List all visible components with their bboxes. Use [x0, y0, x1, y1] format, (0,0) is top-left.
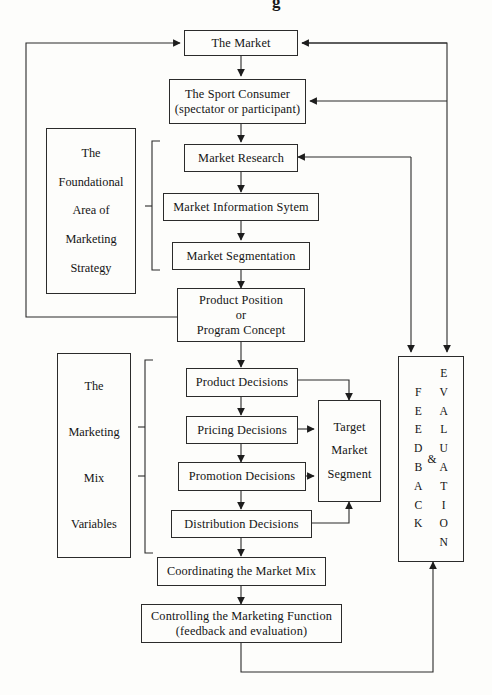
feedback-letter-4: B	[414, 459, 422, 478]
panel-feedback-and-evaluation: FEEDBACK & EVALUATION	[398, 356, 464, 562]
node-target-market-segment-line2: Market	[331, 439, 367, 462]
node-target-market-segment[interactable]: Target Market Segment	[318, 400, 381, 502]
evaluation-letter-9: N	[440, 534, 448, 553]
node-market-information-system[interactable]: Market Information Sytem	[163, 193, 319, 221]
feedback-letter-7: K	[414, 515, 422, 534]
bracket-foundational	[152, 141, 160, 270]
feedback-letter-1: E	[415, 403, 422, 422]
node-coordinating-market-mix-label: Coordinating the Market Mix	[167, 564, 316, 579]
node-sport-consumer[interactable]: The Sport Consumer (spectator or partici…	[169, 79, 306, 124]
ampersand-label: &	[425, 453, 438, 466]
node-distribution-decisions[interactable]: Distribution Decisions	[171, 510, 312, 538]
feedback-letter-0: F	[415, 384, 421, 403]
node-coordinating-market-mix[interactable]: Coordinating the Market Mix	[157, 557, 326, 586]
panel-marketing-mix-line2: Marketing	[68, 425, 119, 440]
evaluation-letter-3: L	[440, 421, 447, 440]
node-market-segmentation[interactable]: Market Segmentation	[172, 242, 310, 270]
panel-marketing-mix-line1: The	[84, 379, 103, 394]
node-pricing-decisions-label: Pricing Decisions	[197, 423, 287, 438]
feedback-letter-2: E	[415, 421, 422, 440]
node-product-decisions[interactable]: Product Decisions	[186, 368, 298, 397]
panel-marketing-mix-line4: Variables	[71, 517, 117, 532]
node-pricing-decisions[interactable]: Pricing Decisions	[186, 416, 298, 444]
feedback-letter-column: FEEDBACK	[414, 384, 425, 534]
feedback-letter-5: A	[414, 478, 422, 497]
evaluation-letter-8: O	[440, 515, 448, 534]
node-market-research[interactable]: Market Research	[184, 144, 298, 172]
node-the-market[interactable]: The Market	[184, 30, 298, 56]
node-target-market-segment-line3: Segment	[327, 463, 371, 486]
edge-product-to-target	[298, 380, 349, 400]
evaluation-letter-0: E	[440, 365, 447, 384]
edge-market-to-feedback	[302, 43, 447, 352]
node-market-research-label: Market Research	[198, 151, 284, 166]
node-distribution-decisions-label: Distribution Decisions	[184, 517, 298, 532]
evaluation-letter-5: A	[440, 459, 448, 478]
panel-foundational-line4: Marketing	[65, 232, 116, 247]
node-the-market-label: The Market	[211, 36, 270, 51]
panel-foundational-area: The Foundational Area of Marketing Strat…	[46, 128, 136, 294]
node-controlling-line1: Controlling the Marketing Function	[151, 609, 332, 624]
flowchart-diagram: g	[0, 0, 492, 695]
evaluation-letter-1: V	[440, 384, 448, 403]
node-sport-consumer-line2: (spectator or participant)	[175, 102, 300, 117]
node-controlling-line2: (feedback and evaluation)	[176, 624, 307, 639]
evaluation-letter-4: U	[440, 440, 448, 459]
node-controlling-marketing-function[interactable]: Controlling the Marketing Function (feed…	[141, 604, 342, 643]
evaluation-letter-column: EVALUATION	[439, 365, 448, 553]
edge-distribution-to-target	[312, 502, 349, 523]
evaluation-letter-7: I	[442, 497, 446, 516]
node-market-segmentation-label: Market Segmentation	[186, 249, 295, 264]
panel-marketing-mix-line3: Mix	[84, 471, 105, 486]
panel-foundational-line1: The	[81, 146, 100, 161]
panel-foundational-line3: Area of	[72, 203, 109, 218]
feedback-letter-3: D	[414, 440, 422, 459]
node-promotion-decisions[interactable]: Promotion Decisions	[178, 462, 306, 491]
panel-foundational-line5: Strategy	[71, 261, 112, 276]
node-market-information-system-label: Market Information Sytem	[173, 200, 308, 215]
node-target-market-segment-line1: Target	[334, 416, 366, 439]
panel-marketing-mix-variables: The Marketing Mix Variables	[57, 353, 131, 558]
title-fragment: g	[272, 0, 281, 12]
panel-foundational-line2: Foundational	[59, 175, 124, 190]
node-product-decisions-label: Product Decisions	[196, 375, 288, 390]
node-product-position[interactable]: Product Position or Program Concept	[177, 288, 305, 342]
node-product-position-line2: or	[236, 308, 247, 323]
evaluation-letter-6: T	[440, 478, 447, 497]
evaluation-letter-2: A	[440, 403, 448, 422]
node-promotion-decisions-label: Promotion Decisions	[189, 469, 295, 484]
feedback-letter-6: C	[414, 497, 422, 516]
node-sport-consumer-line1: The Sport Consumer	[185, 87, 290, 102]
node-product-position-line1: Product Position	[199, 293, 283, 308]
node-product-position-line3: Program Concept	[197, 323, 286, 338]
bracket-marketing-mix	[145, 360, 153, 553]
